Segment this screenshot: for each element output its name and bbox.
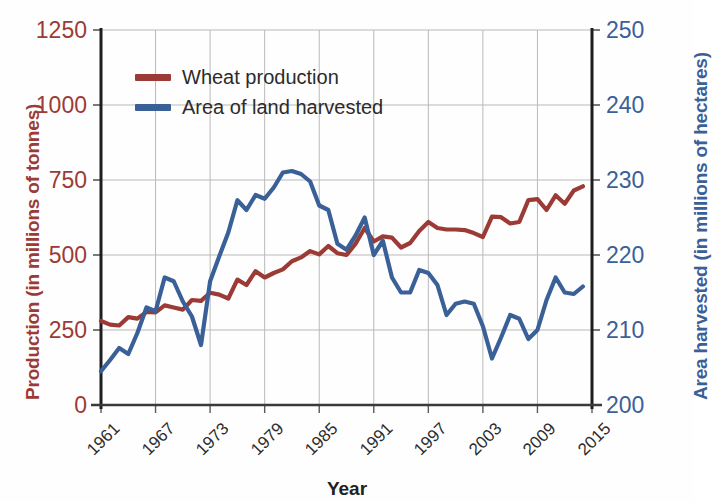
right-y-tick-label: 240 bbox=[606, 92, 644, 119]
right-y-tick-label: 200 bbox=[606, 392, 644, 419]
left-y-tick-label: 1000 bbox=[0, 92, 87, 119]
legend-swatch-icon bbox=[135, 104, 171, 111]
series-line-1 bbox=[101, 186, 583, 325]
legend-item-1: Wheat production bbox=[135, 62, 383, 92]
left-y-tick-label: 750 bbox=[0, 167, 87, 194]
legend-item-label: Area of land harvested bbox=[182, 96, 383, 119]
left-y-tick-label: 1250 bbox=[0, 17, 87, 44]
left-y-tick-label: 250 bbox=[0, 317, 87, 344]
right-y-tick-label: 220 bbox=[606, 242, 644, 269]
right-y-tick-label: 210 bbox=[606, 317, 644, 344]
legend-item-label: Wheat production bbox=[182, 66, 339, 89]
left-y-tick-label: 0 bbox=[0, 392, 87, 419]
series-line-2 bbox=[101, 171, 583, 371]
legend-swatch-icon bbox=[135, 74, 171, 81]
legend-item-2: Area of land harvested bbox=[135, 92, 383, 122]
right-y-tick-label: 250 bbox=[606, 17, 644, 44]
chart-legend: Wheat productionArea of land harvested bbox=[135, 62, 383, 122]
right-y-tick-label: 230 bbox=[606, 167, 644, 194]
left-y-tick-label: 500 bbox=[0, 242, 87, 269]
